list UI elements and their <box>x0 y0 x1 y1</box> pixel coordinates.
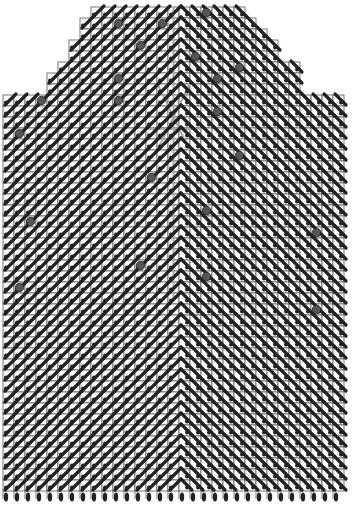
stitch-dot <box>207 145 211 149</box>
stitch-dot <box>218 123 222 127</box>
stitch-dot <box>262 464 266 468</box>
stitch-dot <box>59 486 63 490</box>
stitch-dot <box>240 398 244 402</box>
stitch-dot <box>196 409 200 413</box>
stitch-dot <box>207 387 211 391</box>
stitch-dot <box>273 354 277 358</box>
stitch-dot <box>262 453 266 457</box>
stitch-dot <box>207 233 211 237</box>
stitch-dot <box>262 46 266 50</box>
stitch-dot <box>262 310 266 314</box>
bottom-marker-icon <box>235 493 239 502</box>
stitch-dot <box>196 79 200 83</box>
stitch-dot <box>218 420 222 424</box>
stitch-dot <box>207 442 211 446</box>
stitch-dot <box>196 90 200 94</box>
stitch-dot <box>218 288 222 292</box>
stitch-dot <box>196 46 200 50</box>
stitch-dot <box>240 310 244 314</box>
stitch-dot <box>240 354 244 358</box>
stitch-dot <box>295 79 299 83</box>
stitch-dot <box>229 211 233 215</box>
stitch-dot <box>306 332 310 336</box>
stitch-dot <box>317 431 321 435</box>
stitch-dot <box>207 189 211 193</box>
stitch-dot <box>339 299 343 303</box>
stitch-dot <box>262 409 266 413</box>
bottom-marker-icon <box>169 493 173 502</box>
stitch-dot <box>317 134 321 138</box>
stitch-dot <box>339 365 343 369</box>
stitch-dot <box>240 365 244 369</box>
stitch-dot <box>229 442 233 446</box>
stitch-dot <box>185 156 189 160</box>
stitch-dot <box>240 453 244 457</box>
stitch-dot <box>284 112 288 116</box>
stitch-dot <box>295 145 299 149</box>
stitch-dot <box>196 398 200 402</box>
stitch-dot <box>262 442 266 446</box>
stitch-dot <box>185 354 189 358</box>
stitch-dot <box>295 464 299 468</box>
stitch-dot <box>306 486 310 490</box>
stitch-dot <box>273 101 277 105</box>
bottom-marker-icon <box>246 493 250 502</box>
stitch-dot <box>185 387 189 391</box>
stitch-dot <box>251 266 255 270</box>
stitch-dot <box>273 134 277 138</box>
stitch-dot <box>196 321 200 325</box>
stitch-dot <box>196 244 200 248</box>
stitch-dot <box>284 354 288 358</box>
stitch-dot <box>4 277 8 281</box>
stitch-dot <box>196 277 200 281</box>
stitch-dot <box>229 112 233 116</box>
stitch-dot <box>339 156 343 160</box>
stitch-dot <box>81 24 85 28</box>
stitch-dot <box>306 321 310 325</box>
stitch-dot <box>306 134 310 138</box>
stitch-dot <box>284 310 288 314</box>
stitch-dot <box>251 255 255 259</box>
stitch-dot <box>251 156 255 160</box>
stitch-dot <box>295 486 299 490</box>
bottom-marker-icon <box>312 493 316 502</box>
stitch-dot <box>328 156 332 160</box>
stitch-dot <box>196 354 200 358</box>
stitch-dot <box>240 409 244 413</box>
stitch-dot <box>273 233 277 237</box>
stitch-dot <box>207 321 211 325</box>
stitch-dot <box>273 431 277 435</box>
stitch-dot <box>273 68 277 72</box>
stitch-dot <box>328 123 332 127</box>
stitch-dot <box>273 486 277 490</box>
stitch-dot <box>306 123 310 127</box>
stitch-dot <box>273 277 277 281</box>
stitch-dot <box>4 189 8 193</box>
stitch-chart <box>0 0 354 518</box>
stitch-dot <box>262 288 266 292</box>
stitch-dot <box>295 420 299 424</box>
stitch-dot <box>251 431 255 435</box>
stitch-dot <box>207 178 211 182</box>
stitch-dot <box>240 189 244 193</box>
stitch-dot <box>317 299 321 303</box>
stitch-dot <box>317 178 321 182</box>
stitch-dot <box>306 112 310 116</box>
stitch-dot <box>295 90 299 94</box>
stitch-dot <box>284 486 288 490</box>
stitch-dot <box>251 112 255 116</box>
stitch-dot <box>262 101 266 105</box>
stitch-dot <box>273 57 277 61</box>
stitch-dot <box>339 332 343 336</box>
stitch-dot <box>4 123 8 127</box>
stitch-dot <box>295 112 299 116</box>
stitch-dot <box>185 442 189 446</box>
stitch-dot <box>196 310 200 314</box>
stitch-dot <box>328 277 332 281</box>
stitch-dot <box>262 244 266 248</box>
stitch-dot <box>262 299 266 303</box>
stitch-dot <box>284 442 288 446</box>
bottom-marker-icon <box>136 493 140 502</box>
stitch-dot <box>328 167 332 171</box>
stitch-dot <box>328 299 332 303</box>
